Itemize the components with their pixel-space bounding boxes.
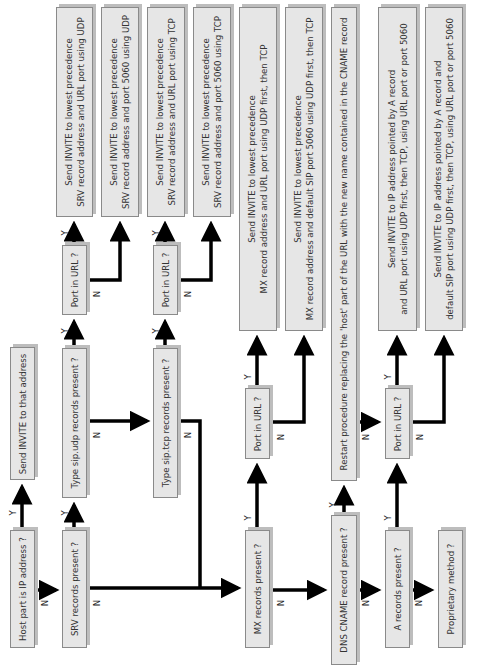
yes-label: Y: [328, 502, 338, 507]
line-1: Send INVITE to lowest precedence: [246, 45, 258, 294]
line-1: Send INVITE to IP address pointed by A r…: [432, 18, 444, 320]
line-1: Send INVITE to lowest precedence: [63, 17, 75, 206]
decision-cname-present: DNS CNAME record present ?: [331, 515, 357, 665]
decision-label: Port in URL ?: [160, 253, 172, 308]
action-mx-url-port: Send INVITE to lowest precedenceMX recor…: [239, 7, 277, 331]
decision-label: SRV records present ?: [69, 542, 81, 636]
no-label: N: [40, 600, 50, 606]
decision-mx-present: MX records present ?: [245, 530, 270, 648]
decision-udp-port-in-url: Port in URL ?: [62, 245, 87, 315]
action-label: Send INVITE to lowest precedenceSRV reco…: [63, 17, 87, 206]
action-label: Send INVITE to lowest precedenceSRV reco…: [154, 18, 178, 205]
action-label: Send INVITE to that address: [17, 353, 29, 473]
decision-tcp-port-in-url: Port in URL ?: [153, 245, 178, 315]
no-label: N: [183, 432, 193, 438]
action-label: Restart procedure replacing the 'host' p…: [338, 18, 350, 471]
decision-label: Port in URL ?: [69, 253, 81, 308]
no-label: N: [276, 600, 286, 606]
line-2: MX record address and URL port using UDP…: [258, 45, 270, 294]
no-label: N: [415, 434, 425, 440]
no-label: N: [361, 434, 371, 440]
yes-label: Y: [243, 374, 253, 379]
decision-a-present: A records present ?: [385, 530, 410, 648]
decision-label: Type sip.udp records present ?: [69, 357, 81, 488]
action-srv-tcp-url-port: Send INVITE to lowest precedenceSRV reco…: [147, 7, 185, 217]
no-label: N: [276, 434, 286, 440]
yes-label: Y: [383, 374, 393, 379]
yes-label: Y: [8, 510, 18, 515]
line-1: Send INVITE to lowest precedence: [154, 18, 166, 205]
no-label: N: [92, 291, 102, 297]
yes-label: Y: [243, 515, 253, 520]
line-1: Send INVITE to lowest precedence: [292, 18, 304, 321]
action-a-5060: Send INVITE to IP address pointed by A r…: [425, 7, 463, 331]
no-label: N: [183, 291, 193, 297]
action-mx-5060: Send INVITE to lowest precedenceMX recor…: [285, 7, 323, 331]
line-2: SRV record address and URL port using UD…: [75, 17, 87, 206]
line-2: SRV record address and URL port using TC…: [166, 18, 178, 205]
decision-host-is-ip: Host part is IP address ?: [10, 530, 35, 648]
action-label: Send INVITE to IP address pointed by A r…: [432, 18, 456, 320]
line-2: MX record address and default SIP port 5…: [304, 18, 316, 321]
action-label: Send INVITE to IP address pointed by A r…: [386, 23, 410, 315]
decision-label: Host part is IP address ?: [17, 537, 29, 641]
action-a-url-port: Send INVITE to IP address pointed by A r…: [378, 7, 417, 331]
no-label: N: [92, 600, 102, 606]
yes-label: Y: [383, 515, 393, 520]
yes-label: Y: [60, 510, 70, 515]
line-2: and URL port using UDP first, then TCP, …: [398, 23, 410, 315]
decision-srv-present: SRV records present ?: [62, 530, 87, 648]
line-2: SRV record address and port 5060 using U…: [120, 15, 132, 209]
line-1: Send INVITE to lowest precedence: [200, 16, 212, 208]
decision-label: DNS CNAME record present ?: [338, 527, 350, 652]
no-label: N: [92, 432, 102, 438]
decision-sip-tcp-present: Type sip.tcp records present ?: [153, 348, 178, 498]
decision-label: Port in URL ?: [252, 396, 264, 451]
no-label: N: [414, 600, 424, 606]
line-1: Send INVITE to IP address pointed by A r…: [386, 23, 398, 315]
action-label: Send INVITE to lowest precedenceMX recor…: [246, 45, 270, 294]
decision-label: Proprietary method ?: [445, 544, 457, 635]
decision-sip-udp-present: Type sip.udp records present ?: [62, 348, 87, 498]
line-2: default SIP port using UDP first, then T…: [444, 18, 456, 320]
action-cname-restart: Restart procedure replacing the 'host' p…: [331, 7, 357, 481]
decision-label: A records present ?: [392, 547, 404, 630]
yes-label: Y: [60, 328, 70, 333]
action-label: Send INVITE to lowest precedenceSRV reco…: [108, 15, 132, 209]
decision-proprietary: Proprietary method ?: [438, 530, 463, 648]
yes-label: Y: [151, 230, 161, 235]
decision-label: Type sip.tcp records present ?: [160, 359, 172, 487]
action-srv-udp-5060: Send INVITE to lowest precedenceSRV reco…: [101, 7, 139, 217]
line-2: SRV record address and port 5060 using T…: [212, 16, 224, 208]
action-label: Send INVITE to lowest precedenceSRV reco…: [200, 16, 224, 208]
decision-a-port-in-url: Port in URL ?: [385, 388, 410, 459]
action-srv-tcp-5060: Send INVITE to lowest precedenceSRV reco…: [193, 7, 231, 217]
decision-mx-port-in-url: Port in URL ?: [245, 388, 270, 459]
action-send-to-ip: Send INVITE to that address: [10, 347, 35, 480]
yes-label: Y: [60, 230, 70, 235]
decision-label: Port in URL ?: [392, 396, 404, 451]
no-label: N: [361, 600, 371, 606]
line-1: Send INVITE to lowest precedence: [108, 15, 120, 209]
yes-label: Y: [151, 328, 161, 333]
action-srv-udp-url-port: Send INVITE to lowest precedenceSRV reco…: [56, 7, 93, 217]
decision-label: MX records present ?: [252, 544, 264, 635]
action-label: Send INVITE to lowest precedenceMX recor…: [292, 18, 316, 321]
